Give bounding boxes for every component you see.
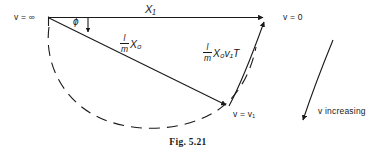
fraction-l-over-m: l m (120, 34, 129, 53)
figure-caption: Fig. 5.21 (0, 137, 376, 147)
label-v-increasing: v increasing (318, 107, 366, 116)
label-x1: X₁ (145, 4, 156, 15)
x0v1t-vector-line (229, 22, 264, 106)
fraction-denominator: m (120, 45, 129, 54)
label-x0-term: X₀ (130, 38, 141, 50)
label-x0v1t-vector: l m X₀v₁T (203, 43, 240, 62)
label-x0-vector: l m X₀ (120, 34, 142, 53)
label-phi-angle: ϕ (73, 17, 79, 27)
x0-vector-line (49, 18, 226, 105)
label-v-infinity: v = ∞ (14, 13, 35, 22)
fraction-numerator: l (123, 34, 127, 43)
label-x0v1t-term: X₀v₁T (213, 47, 239, 59)
label-v-zero: v = 0 (283, 13, 303, 22)
fraction-l-over-m-2: l m (203, 43, 212, 62)
vector-diagram-svg (0, 0, 376, 155)
fraction-numerator-2: l (206, 43, 210, 52)
label-v-v1: v = v₁ (233, 110, 255, 119)
figure-container: v = ∞ v = 0 v = v₁ v increasing X₁ ϕ l m… (0, 0, 376, 155)
fraction-denominator-2: m (203, 54, 212, 63)
